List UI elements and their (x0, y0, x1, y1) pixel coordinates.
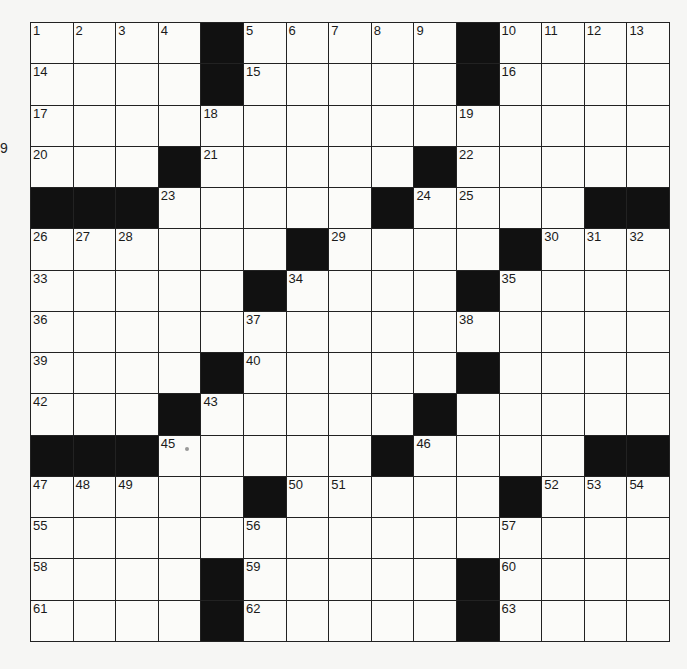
grid-cell[interactable] (500, 188, 542, 228)
grid-cell[interactable] (287, 147, 329, 187)
grid-cell[interactable]: 29 (329, 229, 371, 269)
grid-cell[interactable] (159, 106, 201, 146)
grid-cell[interactable] (159, 477, 201, 517)
grid-cell[interactable] (159, 601, 201, 641)
grid-cell[interactable]: 2 (74, 23, 116, 63)
grid-cell[interactable]: 3 (116, 23, 158, 63)
grid-cell[interactable] (585, 518, 627, 558)
grid-cell[interactable] (372, 477, 414, 517)
grid-cell[interactable] (585, 559, 627, 599)
grid-cell[interactable] (542, 271, 584, 311)
grid-cell[interactable] (329, 64, 371, 104)
grid-cell[interactable] (457, 436, 499, 476)
grid-cell[interactable] (329, 106, 371, 146)
grid-cell[interactable] (585, 64, 627, 104)
grid-cell[interactable] (542, 188, 584, 228)
grid-cell[interactable] (627, 518, 669, 558)
grid-cell[interactable] (159, 271, 201, 311)
grid-cell[interactable] (116, 559, 158, 599)
grid-cell[interactable]: 56 (244, 518, 286, 558)
grid-cell[interactable]: 10 (500, 23, 542, 63)
grid-cell[interactable] (116, 106, 158, 146)
grid-cell[interactable]: 26 (31, 229, 73, 269)
grid-cell[interactable] (116, 518, 158, 558)
grid-cell[interactable] (372, 312, 414, 352)
grid-cell[interactable] (627, 64, 669, 104)
grid-cell[interactable] (159, 312, 201, 352)
grid-cell[interactable]: 63 (500, 601, 542, 641)
grid-cell[interactable] (500, 147, 542, 187)
grid-cell[interactable] (159, 559, 201, 599)
grid-cell[interactable] (74, 312, 116, 352)
grid-cell[interactable]: 58 (31, 559, 73, 599)
grid-cell[interactable]: 47 (31, 477, 73, 517)
grid-cell[interactable] (287, 106, 329, 146)
grid-cell[interactable] (74, 559, 116, 599)
grid-cell[interactable] (372, 64, 414, 104)
grid-cell[interactable] (329, 436, 371, 476)
grid-cell[interactable]: 13 (627, 23, 669, 63)
grid-cell[interactable]: 19 (457, 106, 499, 146)
grid-cell[interactable] (414, 559, 456, 599)
grid-cell[interactable] (159, 353, 201, 393)
grid-cell[interactable] (329, 559, 371, 599)
grid-cell[interactable] (74, 394, 116, 434)
grid-cell[interactable] (287, 601, 329, 641)
grid-cell[interactable] (116, 271, 158, 311)
grid-cell[interactable] (585, 271, 627, 311)
grid-cell[interactable]: 55 (31, 518, 73, 558)
grid-cell[interactable] (201, 188, 243, 228)
grid-cell[interactable]: 51 (329, 477, 371, 517)
grid-cell[interactable] (201, 229, 243, 269)
grid-cell[interactable] (74, 147, 116, 187)
grid-cell[interactable] (159, 229, 201, 269)
grid-cell[interactable]: 27 (74, 229, 116, 269)
grid-cell[interactable]: 14 (31, 64, 73, 104)
grid-cell[interactable] (244, 147, 286, 187)
grid-cell[interactable] (627, 106, 669, 146)
grid-cell[interactable] (414, 271, 456, 311)
grid-cell[interactable] (585, 312, 627, 352)
grid-cell[interactable] (74, 106, 116, 146)
grid-cell[interactable] (372, 559, 414, 599)
grid-cell[interactable] (457, 518, 499, 558)
grid-cell[interactable] (244, 436, 286, 476)
grid-cell[interactable] (201, 436, 243, 476)
grid-cell[interactable] (372, 353, 414, 393)
grid-cell[interactable] (414, 601, 456, 641)
grid-cell[interactable] (542, 436, 584, 476)
grid-cell[interactable] (585, 353, 627, 393)
grid-cell[interactable]: 50 (287, 477, 329, 517)
grid-cell[interactable] (500, 436, 542, 476)
grid-cell[interactable] (542, 518, 584, 558)
grid-cell[interactable] (116, 353, 158, 393)
grid-cell[interactable] (414, 64, 456, 104)
grid-cell[interactable] (627, 559, 669, 599)
grid-cell[interactable]: 17 (31, 106, 73, 146)
grid-cell[interactable]: 6 (287, 23, 329, 63)
grid-cell[interactable] (329, 601, 371, 641)
grid-cell[interactable] (414, 518, 456, 558)
grid-cell[interactable] (201, 271, 243, 311)
grid-cell[interactable] (457, 229, 499, 269)
grid-cell[interactable] (159, 64, 201, 104)
grid-cell[interactable]: 54 (627, 477, 669, 517)
grid-cell[interactable] (542, 147, 584, 187)
grid-cell[interactable] (500, 312, 542, 352)
grid-cell[interactable]: 30 (542, 229, 584, 269)
grid-cell[interactable] (116, 394, 158, 434)
grid-cell[interactable] (74, 271, 116, 311)
grid-cell[interactable] (201, 312, 243, 352)
grid-cell[interactable]: 38 (457, 312, 499, 352)
grid-cell[interactable] (287, 312, 329, 352)
grid-cell[interactable] (585, 106, 627, 146)
grid-cell[interactable] (414, 353, 456, 393)
grid-cell[interactable]: 20 (31, 147, 73, 187)
grid-cell[interactable] (329, 353, 371, 393)
grid-cell[interactable]: 23 (159, 188, 201, 228)
grid-cell[interactable] (500, 106, 542, 146)
grid-cell[interactable]: 7 (329, 23, 371, 63)
grid-cell[interactable] (372, 229, 414, 269)
grid-cell[interactable] (542, 312, 584, 352)
grid-cell[interactable]: 40 (244, 353, 286, 393)
